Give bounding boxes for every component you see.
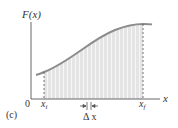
delta-x-label: Δ x	[83, 111, 96, 122]
shaded-area	[44, 24, 143, 99]
xi-label: xi	[40, 98, 47, 111]
y-axis-label: F(x)	[21, 8, 41, 21]
panel-label: (c)	[6, 109, 17, 121]
x-axis-label: x	[162, 92, 168, 104]
origin-label: 0	[25, 98, 30, 109]
work-area-diagram: F(x) x 0 xi xf Δ x (c)	[0, 0, 178, 128]
delta-x-marker	[80, 102, 98, 110]
xf-label: xf	[138, 98, 146, 111]
